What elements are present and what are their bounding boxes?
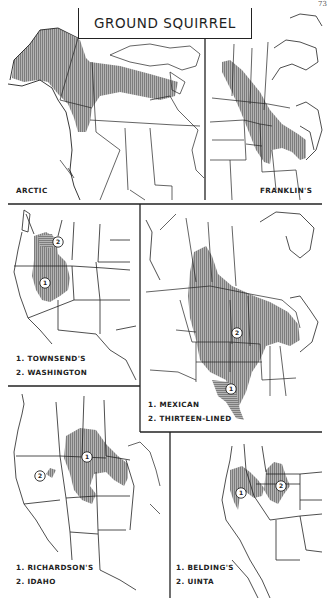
map-arctic <box>8 28 204 200</box>
legend-line: 1. TOWNSEND'S <box>16 352 87 366</box>
range-thirteen-lined <box>188 246 300 408</box>
marker-mexican: 1 <box>226 384 236 394</box>
marker-washington: 2 <box>53 237 63 247</box>
page-title: GROUND SQUIRREL <box>94 15 236 31</box>
svg-text:1: 1 <box>239 489 243 496</box>
legend-line: 1. MEXICAN <box>148 398 232 412</box>
range-franklins <box>222 60 306 164</box>
legend-beldings-uinta: 1. BELDING'S 2. UINTA <box>176 561 234 589</box>
title-box: GROUND SQUIRREL <box>78 8 252 39</box>
svg-text:2: 2 <box>279 482 283 489</box>
range-richardsons <box>64 428 128 504</box>
marker-thirteen-lined: 2 <box>232 328 242 338</box>
legend-line: 2. UINTA <box>176 575 234 589</box>
range-idaho <box>46 468 56 478</box>
map-franklins <box>210 14 322 200</box>
svg-text:1: 1 <box>43 279 47 286</box>
svg-text:2: 2 <box>38 472 42 479</box>
svg-text:2: 2 <box>56 238 60 245</box>
legend-richardsons-idaho: 1. RICHARDSON'S 2. IDAHO <box>16 561 93 589</box>
svg-text:2: 2 <box>235 329 239 336</box>
marker-beldings: 1 <box>236 488 246 498</box>
svg-text:1: 1 <box>229 385 233 392</box>
legend-line: ARCTIC <box>16 184 48 198</box>
svg-text:1: 1 <box>85 453 89 460</box>
legend-line: FRANKLIN'S <box>260 184 312 198</box>
page-number: 73 <box>318 0 327 8</box>
range-maps: 1 2 1 2 1 2 1 <box>0 0 335 602</box>
marker-townsends: 1 <box>40 278 50 288</box>
legend-mexican-thirteen-lined: 1. MEXICAN 2. THIRTEEN-LINED <box>148 398 232 426</box>
legend-townsends-washington: 1. TOWNSEND'S 2. WASHINGTON <box>16 352 87 380</box>
marker-richardsons: 1 <box>82 452 92 462</box>
legend-line: 2. THIRTEEN-LINED <box>148 412 232 426</box>
legend-line: 1. BELDING'S <box>176 561 234 575</box>
legend-line: 2. WASHINGTON <box>16 366 87 380</box>
legend-line: 2. IDAHO <box>16 575 93 589</box>
marker-idaho: 2 <box>35 471 45 481</box>
legend-franklins: FRANKLIN'S <box>260 184 312 198</box>
legend-line: 1. RICHARDSON'S <box>16 561 93 575</box>
map-beldings-uinta <box>222 444 322 598</box>
field-guide-page: 1 2 1 2 1 2 1 <box>0 0 335 602</box>
legend-arctic: ARCTIC <box>16 184 48 198</box>
marker-uinta: 2 <box>276 481 286 491</box>
